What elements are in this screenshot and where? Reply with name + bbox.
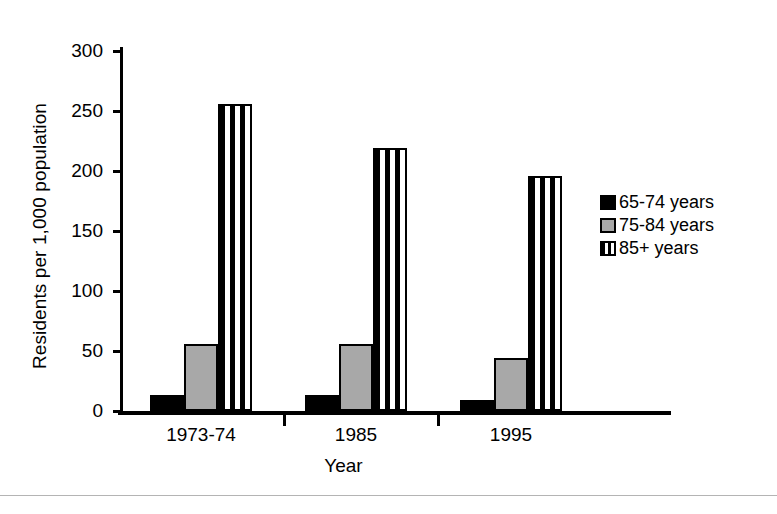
x-axis-label-1985: 1985 (296, 424, 416, 446)
bar-1995-65-74-years (460, 400, 494, 411)
bar-1985-85-years (373, 148, 407, 411)
legend-swatch-icon-65-74 (600, 195, 616, 210)
legend-label-75-84: 75-84 years (619, 216, 714, 234)
bar-1995-75-84-years (494, 358, 528, 411)
legend-item-75-84: 75-84 years (600, 214, 714, 236)
bar-1995-85-years (528, 176, 562, 411)
x-axis-line (118, 411, 671, 415)
bar-1973-74-65-74-years (150, 395, 184, 411)
legend-label-85-plus: 85+ years (619, 239, 699, 257)
bar-1985-65-74-years (305, 395, 339, 411)
x-axis-separator-tick (437, 414, 440, 426)
legend-swatch-icon-85-plus (600, 241, 616, 256)
bar-1973-74-75-84-years (184, 344, 218, 411)
x-axis-label-1995: 1995 (451, 424, 571, 446)
bottom-divider (0, 495, 777, 496)
x-axis-title-text: Year (324, 455, 362, 476)
x-axis-title: Year (0, 455, 777, 477)
x-axis-label-1973-74: 1973-74 (141, 424, 261, 446)
chart-legend: 65-74 years 75-84 years 85+ years (600, 191, 714, 260)
legend-item-85-plus: 85+ years (600, 237, 714, 259)
legend-item-65-74: 65-74 years (600, 191, 714, 213)
legend-swatch-icon-75-84 (600, 218, 616, 233)
legend-label-65-74: 65-74 years (619, 193, 714, 211)
x-axis-separator-tick (283, 414, 286, 426)
bar-chart-figure: Residents per 1,000 population 050100150… (0, 0, 777, 514)
bar-1985-75-84-years (339, 344, 373, 411)
bar-1973-74-85-years (218, 104, 252, 411)
